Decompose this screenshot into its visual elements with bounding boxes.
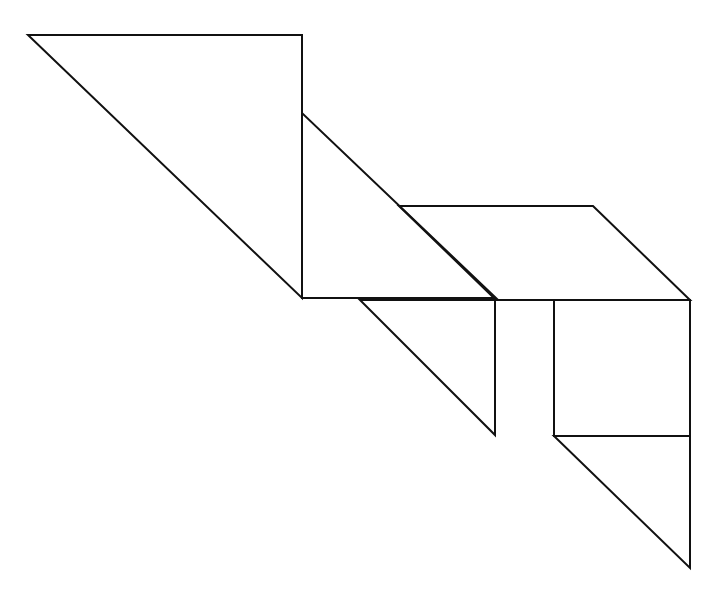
parallelogram [399, 206, 690, 300]
large-triangle-top-left [28, 35, 302, 298]
medium-triangle [360, 300, 495, 435]
small-triangle-bottom [554, 436, 690, 568]
square [554, 300, 690, 436]
tangram-diagram [0, 0, 721, 595]
